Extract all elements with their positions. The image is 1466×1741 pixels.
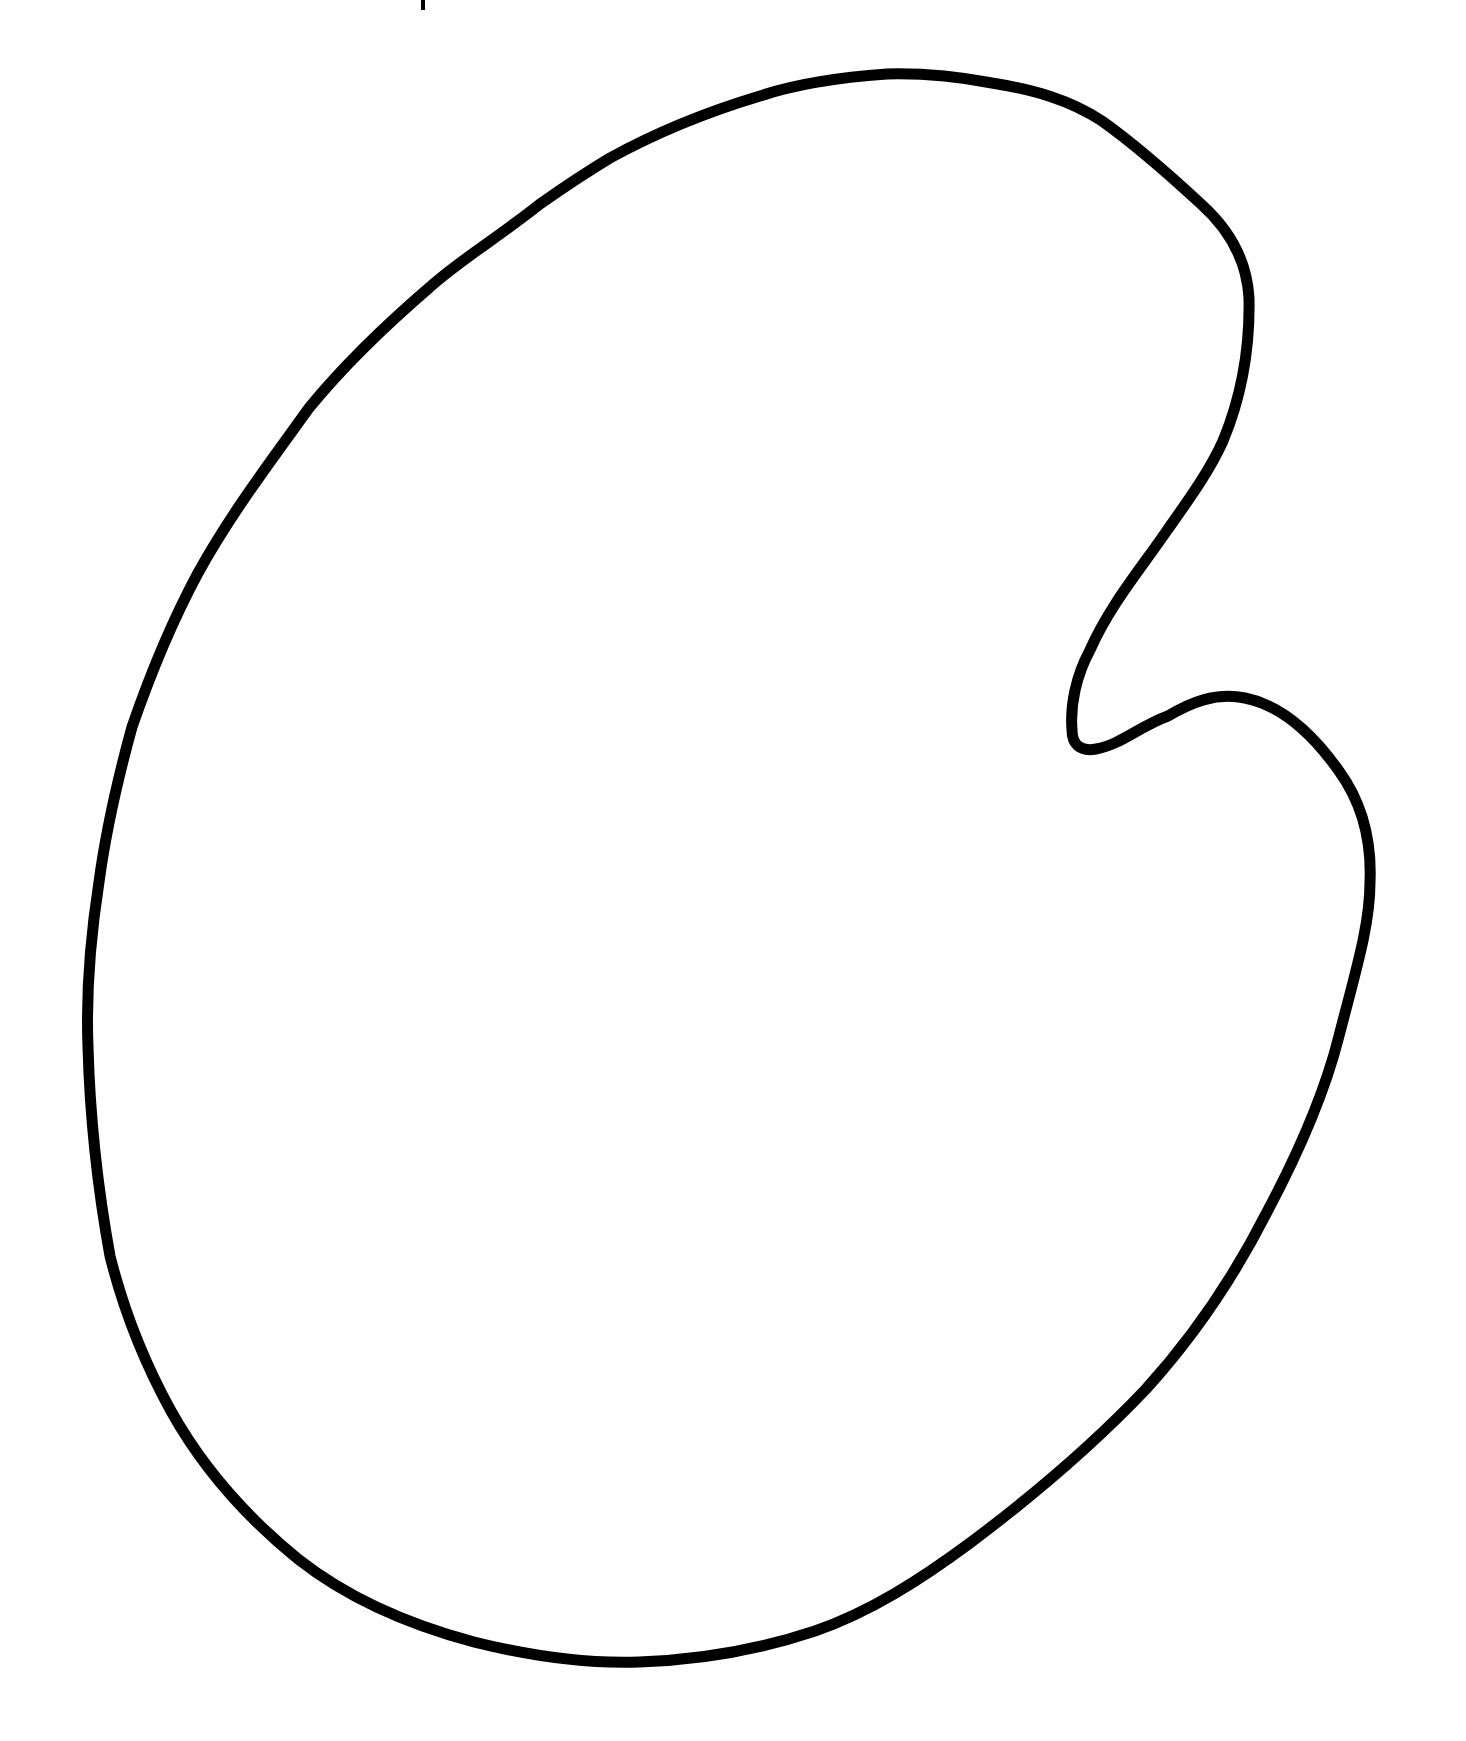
- blob-outline-drawing: [0, 0, 1466, 1741]
